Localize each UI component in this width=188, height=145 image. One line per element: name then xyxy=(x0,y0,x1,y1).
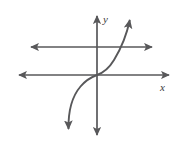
coordinate-plane-svg: y x xyxy=(0,0,188,145)
y-axis-label: y xyxy=(102,13,108,25)
x-axis-label: x xyxy=(159,81,165,93)
graph-figure: y x xyxy=(0,0,188,145)
